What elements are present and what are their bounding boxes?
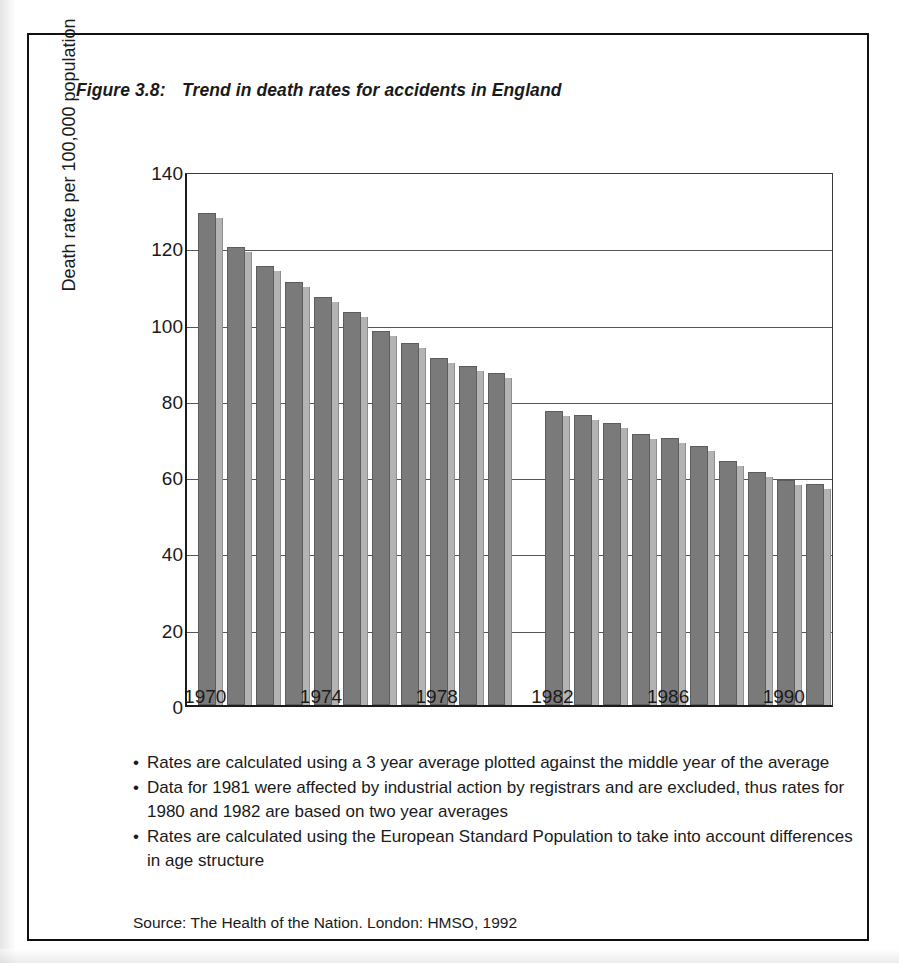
bar-face [198, 213, 216, 705]
figure-number: Figure 3.8: [76, 80, 182, 101]
y-axis-tick-label: 40 [63, 545, 183, 564]
bar-face [256, 266, 274, 705]
plot-area [185, 173, 833, 707]
x-axis-tick-label: 1982 [492, 686, 612, 708]
bar-side-shadow [592, 420, 599, 705]
bar-side-shadow [505, 378, 512, 705]
figure-notes: •Rates are calculated using a 3 year ave… [133, 751, 853, 874]
bar [430, 358, 448, 705]
y-axis-tick-label: 140 [63, 164, 183, 183]
y-axis-tick-label: 120 [63, 240, 183, 259]
bar-face [632, 434, 650, 705]
y-axis-tick-label: 100 [63, 316, 183, 335]
bar-side-shadow [737, 466, 744, 705]
bullet-icon: • [133, 825, 139, 849]
x-axis-tick-label: 1978 [377, 686, 497, 708]
bar [285, 282, 303, 705]
bar-side-shadow [766, 477, 773, 705]
bar-face [777, 480, 795, 705]
page-edge-shading-bottom [0, 949, 899, 963]
x-axis-tick-label: 1986 [608, 686, 728, 708]
bar-face [372, 331, 390, 705]
bar [574, 415, 592, 705]
bar [459, 366, 477, 705]
bar [748, 472, 766, 705]
bar-face [401, 343, 419, 705]
bar-series [187, 174, 832, 705]
bar-face [227, 247, 245, 705]
bar-side-shadow [245, 252, 252, 705]
bar-side-shadow [448, 363, 455, 705]
bar-side-shadow [274, 271, 281, 705]
bar [719, 461, 737, 705]
note-text: Rates are calculated using the European … [147, 827, 853, 870]
bar-face [661, 438, 679, 705]
bar [401, 343, 419, 705]
bar [488, 373, 506, 705]
bar-face [343, 312, 361, 705]
x-axis-tick-label: 1970 [145, 686, 265, 708]
bar [372, 331, 390, 705]
figure-frame: Figure 3.8:Trend in death rates for acci… [27, 33, 869, 941]
note-item: •Rates are calculated using the European… [133, 825, 853, 873]
bar-side-shadow [650, 439, 657, 705]
bar [690, 446, 708, 705]
page-edge-shading-left [0, 0, 16, 963]
y-axis-tick-label: 20 [63, 621, 183, 640]
x-axis-tick-label: 1990 [724, 686, 844, 708]
bar-side-shadow [361, 317, 368, 705]
bar-side-shadow [708, 451, 715, 705]
bar-face [603, 423, 621, 705]
bar-side-shadow [795, 485, 802, 705]
bar-side-shadow [621, 428, 628, 705]
x-axis-tick-label: 1974 [261, 686, 381, 708]
bar-face [719, 461, 737, 705]
bar [777, 480, 795, 705]
y-axis-tick-label: 80 [63, 392, 183, 411]
bar [545, 411, 563, 705]
bar [343, 312, 361, 705]
chart-area: Death rate per 100,000 population 020406… [147, 140, 837, 730]
bar-face [459, 366, 477, 705]
source-line: Source: The Health of the Nation. London… [133, 914, 517, 932]
bar-face [806, 484, 824, 705]
bar-side-shadow [419, 348, 426, 705]
y-axis-tick-label: 60 [63, 469, 183, 488]
bar-side-shadow [563, 416, 570, 705]
bar-face [285, 282, 303, 705]
bar [806, 484, 824, 705]
bar-side-shadow [332, 302, 339, 705]
bar-side-shadow [303, 287, 310, 705]
y-axis-title: Death rate per 100,000 population [59, 0, 80, 315]
bar-face [488, 373, 506, 705]
bar [256, 266, 274, 705]
bar-face [314, 297, 332, 705]
bar-side-shadow [679, 443, 686, 705]
bar-face [430, 358, 448, 705]
bar-face [690, 446, 708, 705]
bar-side-shadow [477, 371, 484, 705]
bar [661, 438, 679, 705]
bar-face [748, 472, 766, 705]
bullet-icon: • [133, 776, 139, 800]
bar-side-shadow [824, 489, 831, 705]
bar [314, 297, 332, 705]
bar-side-shadow [390, 336, 397, 705]
note-item: •Data for 1981 were affected by industri… [133, 776, 853, 824]
bar [227, 247, 245, 705]
figure-title: Figure 3.8:Trend in death rates for acci… [76, 80, 562, 101]
note-item: •Rates are calculated using a 3 year ave… [133, 751, 853, 775]
note-text: Data for 1981 were affected by industria… [147, 778, 844, 821]
bullet-icon: • [133, 751, 139, 775]
bar-face [574, 415, 592, 705]
bar-face [545, 411, 563, 705]
bar [603, 423, 621, 705]
bar [632, 434, 650, 705]
figure-title-text: Trend in death rates for accidents in En… [182, 80, 562, 100]
bar-side-shadow [216, 218, 223, 705]
note-text: Rates are calculated using a 3 year aver… [147, 753, 829, 772]
bar [198, 213, 216, 705]
